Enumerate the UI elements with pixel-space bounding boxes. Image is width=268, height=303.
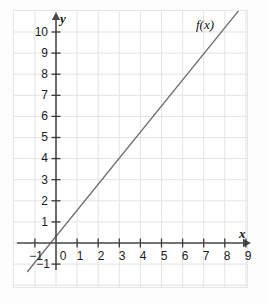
y-tick-label-3: 3 [41, 174, 48, 186]
x-tick-label-8: 8 [224, 250, 231, 262]
y-tick-label-4: 4 [41, 152, 48, 164]
y-tick-label-7: 7 [41, 89, 48, 101]
y-tick-label-5: 5 [41, 131, 48, 143]
function-line-fx [28, 9, 240, 272]
y-axis-label: y [60, 11, 66, 27]
x-tick-label-3: 3 [119, 250, 126, 262]
y-tick-label-9: 9 [41, 47, 48, 59]
x-tick-label-6: 6 [182, 250, 189, 262]
y-tick-label-8: 8 [41, 68, 48, 80]
x-tick-label-7: 7 [203, 250, 210, 262]
x-tick-label-2: 2 [98, 250, 105, 262]
x-tick-label-9: 9 [245, 250, 252, 262]
y-tick-label-10: 10 [35, 26, 48, 38]
x-tick-label-neg1: −1 [29, 250, 43, 262]
y-tick-label-2: 2 [41, 195, 48, 207]
x-axis-label: x [239, 226, 246, 242]
x-axis [17, 239, 251, 247]
x-tick-label-4: 4 [140, 250, 147, 262]
x-tick-label-1: 1 [77, 250, 84, 262]
function-label-fx: f(x) [196, 17, 214, 33]
x-tick-label-5: 5 [161, 250, 168, 262]
y-tick-label-1: 1 [41, 216, 48, 228]
y-tick-label-6: 6 [41, 110, 48, 122]
y-axis [52, 12, 60, 270]
graph-figure: 10 9 8 7 6 5 4 3 2 1 −1 −1 0 1 2 3 4 5 6… [0, 0, 268, 303]
grid-lines-horizontal [14, 32, 247, 285]
x-tick-label-0: 0 [60, 250, 67, 262]
